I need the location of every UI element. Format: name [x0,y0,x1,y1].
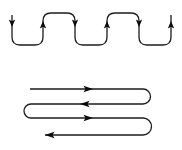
background [0,0,182,150]
diagram-canvas [0,0,182,150]
serpentine-diagrams [0,0,182,150]
